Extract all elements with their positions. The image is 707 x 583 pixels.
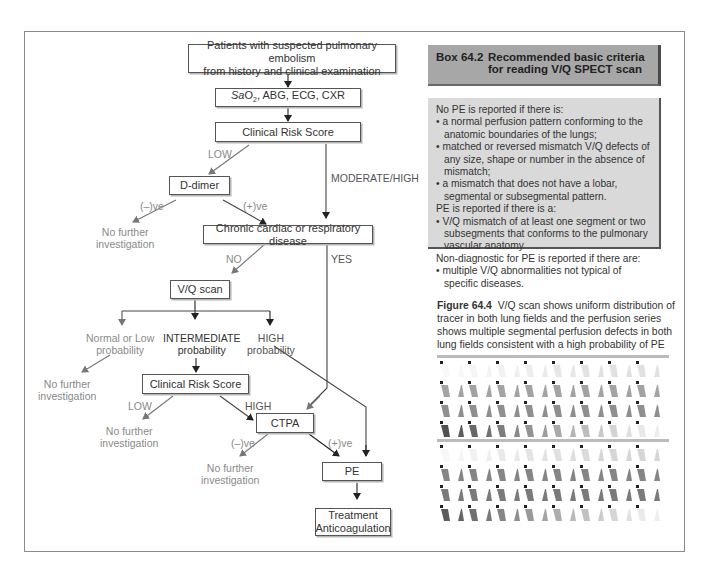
pe-list: V/Q mismatch of at least one segment or … [436,216,651,253]
risk-score-node: Clinical Risk Score [215,122,361,142]
start-line1: Patients with suspected pulmonary emboli… [189,39,395,65]
pe-heading: PE is reported if there is a: [436,203,651,215]
no-further-investigation-2: No further investigation [38,378,96,402]
ddimer-label: D-dimer [180,179,219,192]
box-header: Box 64.2 Recommended basic criteria for … [428,45,661,86]
nfi4-line1: No further [201,462,259,474]
treatment-node: Treatment Anticoagulation [315,508,391,536]
box-title: Recommended basic criteria for reading V… [488,51,650,78]
no-pe-item: a normal perfusion pattern conforming to… [436,116,651,141]
vq-scan-image [437,355,669,525]
no-pe-heading: No PE is reported if there is: [436,104,651,116]
normal-low-line1: Normal or Low [86,332,154,344]
high-label-2: HIGH [245,400,271,412]
vq-scan-node: V/Q scan [170,280,230,299]
nfi2-line1: No further [38,378,96,390]
treatment-line1: Treatment [328,509,378,522]
normal-low-probability-label: Normal or Low probability [86,332,154,356]
risk-score-2-label: Clinical Risk Score [150,378,242,391]
nfi1-line2: investigation [96,238,154,250]
box-body: No PE is reported if there is: a normal … [428,98,661,249]
start-node: Patients with suspected pulmonary emboli… [188,44,396,73]
nfi4-line2: investigation [201,474,259,486]
chronic-disease-label: Chronic cardiac or respiratory disease [204,222,372,248]
no-label: NO [226,253,242,265]
negative-label-1: (–)ve [140,200,164,212]
yes-label: YES [331,253,352,265]
risk-score-label: Clinical Risk Score [242,126,334,139]
sao2-o: O [244,89,253,101]
box-number: Box 64.2 [436,51,488,78]
start-line2: from history and clinical examination [203,65,380,78]
intermediate-line1: INTERMEDIATE [163,332,240,344]
ctpa-label: CTPA [271,417,300,430]
ddimer-node: D-dimer [169,176,230,195]
treatment-line2: Anticoagulation [315,522,390,535]
no-further-investigation-1: No further investigation [96,226,154,250]
normal-low-line2: probability [86,344,154,356]
no-pe-list: a normal perfusion pattern conforming to… [436,116,651,203]
non-diagnostic-heading: Non-diagnostic for PE is reported if the… [436,253,651,265]
chronic-disease-node: Chronic cardiac or respiratory disease [203,225,373,244]
high-probability-label: HIGH probability [247,332,295,356]
nfi1-line1: No further [96,226,154,238]
high-prob-line1: HIGH [247,332,295,344]
non-diagnostic-item: multiple V/Q abnormalities not typical o… [436,265,651,290]
tests-label: SaO2, ABG, ECG, CXR [231,89,345,106]
nfi2-line2: investigation [38,390,96,402]
no-pe-item: matched or reversed mismatch V/Q defects… [436,141,651,178]
pe-node: PE [322,462,382,481]
low-label-1: LOW [208,148,232,160]
figure-caption: Figure 64.4 V/Q scan shows uniform distr… [437,299,682,351]
intermediate-probability-label: INTERMEDIATE probability [163,332,240,356]
pe-label: PE [345,465,360,478]
figure-label: Figure 64.4 [437,300,492,311]
negative-label-2: (–)ve [231,437,255,449]
nfi3-line1: No further [100,425,158,437]
no-further-investigation-4: No further investigation [201,462,259,486]
tests-node: SaO2, ABG, ECG, CXR [215,88,361,107]
pe-item: V/Q mismatch of at least one segment or … [436,216,651,253]
low-label-2: LOW [128,400,152,412]
risk-score-node-2: Clinical Risk Score [142,374,249,394]
moderate-high-label: MODERATE/HIGH [331,172,419,184]
vq-scan-label: V/Q scan [177,283,222,296]
non-diagnostic-list: multiple V/Q abnormalities not typical o… [436,265,651,290]
intermediate-line2: probability [163,344,240,356]
high-prob-line2: probability [247,344,295,356]
no-pe-item: a mismatch that does not have a lobar, s… [436,178,651,203]
positive-label-2: (+)ve [328,437,352,449]
ctpa-node: CTPA [256,413,314,433]
positive-label-1: (+)ve [243,200,267,212]
tests-rest: , ABG, ECG, CXR [257,89,345,101]
no-further-investigation-3: No further investigation [100,425,158,449]
nfi3-line2: investigation [100,437,158,449]
sao2-sa: Sa [231,89,244,101]
